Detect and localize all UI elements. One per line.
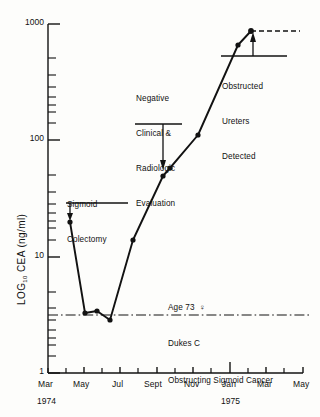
data-point [94,308,99,313]
annotation-line: Negative [136,93,175,105]
annotation-line: Clinical & [136,128,175,140]
y-major-ticks [48,24,60,373]
annotation-obstructed-ureters: Obstructed Ureters Detected [222,58,263,186]
y-axis-title-base: LOG [16,283,27,305]
data-point [107,317,112,322]
x-tick-label-sept-1974: Sept [144,380,162,390]
x-tick-label-jul-1974: Jul [112,380,123,390]
y-tick-label-100: 100 [8,134,44,144]
data-point [130,237,135,242]
y-minor-ticks [48,58,56,356]
annotation-line: Obstructed [222,81,263,93]
patient-info-block: Age 73 ♀ Dukes C Obstructing Sigmoid Can… [168,277,273,412]
annotation-line: Colectomy [67,234,107,246]
x-tick-label-may-1975: May [293,380,309,390]
cea-log-chart-figure: 1000 100 10 1 LOG10 CEA (ng/ml) Mar May … [0,0,320,417]
patient-info-age: Age 73 ♀ [168,302,273,314]
annotation-sigmoid-colectomy: Sigmoid Colectomy [67,176,107,269]
annotation-line: Radiologic [136,163,175,175]
annotation-line: Evaluation [136,198,175,210]
y-axis-title-rest: CEA (ng/ml) [16,214,27,275]
y-axis-title-subscript: 10 [22,275,28,282]
annotation-line: Ureters [222,116,263,128]
annotation-line: Sigmoid [67,199,107,211]
annotation-line: Detected [222,151,263,163]
data-point [195,132,200,137]
x-year-label-1974: 1974 [37,397,56,407]
patient-info-diagnosis: Obstructing Sigmoid Cancer [168,375,273,387]
data-point [82,310,87,315]
y-tick-label-1: 1 [8,367,44,377]
data-point [235,42,240,47]
y-tick-label-1000: 1000 [8,18,44,28]
patient-info-stage: Dukes C [168,338,273,350]
annotation-negative-evaluation: Negative Clinical & Radiologic Evaluatio… [136,70,175,233]
x-tick-label-may-1974: May [73,380,89,390]
y-axis-title: LOG10 CEA (ng/ml) [16,214,27,305]
x-tick-label-mar-1974: Mar [38,380,53,390]
obstructed-ureters-leader [221,32,287,56]
